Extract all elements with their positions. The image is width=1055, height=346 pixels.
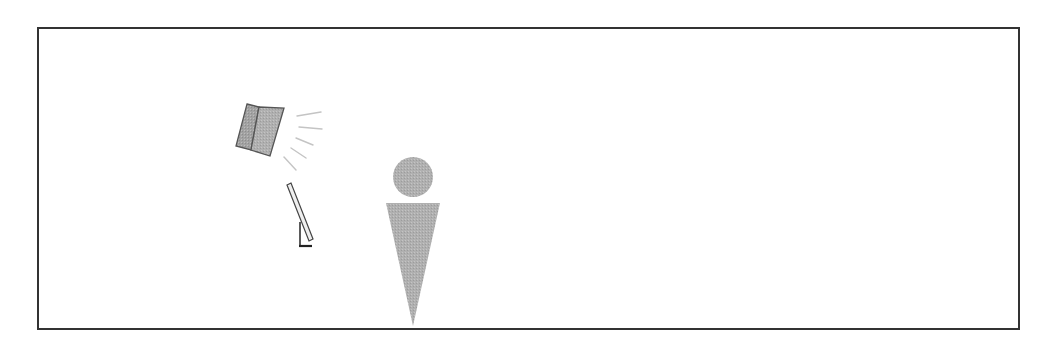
diagram-canvas — [0, 0, 1055, 346]
person-icon — [386, 157, 440, 326]
person-head — [393, 157, 433, 197]
sound-waves-icon — [284, 112, 322, 170]
scene-illustration — [0, 0, 1055, 346]
loudspeaker-icon — [236, 104, 284, 156]
microphone-stand-icon — [287, 183, 313, 246]
person-body — [386, 203, 440, 326]
